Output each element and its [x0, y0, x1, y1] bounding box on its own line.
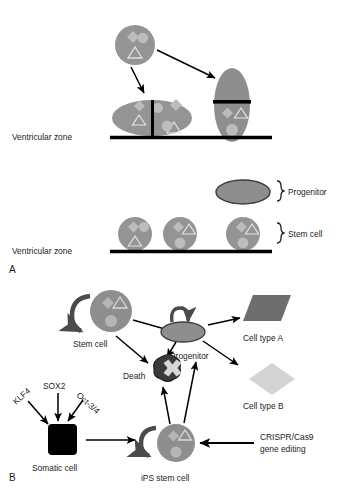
panel-b-death-label: Death [123, 371, 146, 381]
factor-sox2-label: SOX2 [43, 381, 66, 391]
panel-b-cell-type-b-label: Cell type B [243, 401, 284, 411]
legend-progenitor-label: Progenitor [288, 187, 327, 197]
stem-cell-row-item [118, 217, 152, 251]
panel-b-somatic-cell-label: Somatic cell [32, 463, 77, 473]
figure-container: Ventricular zone Progenitor Stem cell [0, 0, 343, 488]
panel-a-label: A [9, 264, 16, 275]
ventricular-zone-label-top: Ventricular zone [12, 132, 72, 142]
panel-a-parent-stem-cell [115, 25, 155, 65]
crispr-label-line2: gene editing [260, 444, 306, 454]
panel-b-cell-type-a-label: Cell type A [243, 333, 283, 343]
ventricular-zone-label-bottom: Ventricular zone [12, 246, 72, 256]
panel-b-ips-stem-cell-label: iPS stem cell [141, 473, 190, 483]
stem-cell-row-item [163, 217, 197, 251]
crispr-label-line1: CRISPR/Cas9 [260, 432, 314, 442]
panel-b-label: B [9, 472, 16, 483]
stem-cell-lineage-diagram: Ventricular zone Progenitor Stem cell [0, 0, 343, 488]
legend-stem-cell-label: Stem cell [288, 229, 323, 239]
panel-b-stem-cell-label: Stem cell [73, 339, 108, 349]
